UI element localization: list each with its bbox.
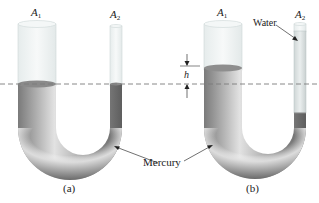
mercury-surface-wide [204,65,242,72]
label-a2: A2 [110,9,120,22]
wide-arm-glass [18,24,56,86]
water-column [294,31,306,113]
arrow-up-icon [185,84,190,89]
caption-a: (a) [63,183,75,194]
mercury-label: Mercury [143,157,181,168]
label-a1: A1 [31,7,41,20]
arrow-down-icon [185,61,190,66]
panel-b [180,21,306,180]
water-label: Water [253,18,277,28]
label-a1: A1 [217,7,227,20]
label-a2: A2 [295,9,305,22]
wide-arm-glass [204,24,242,70]
height-label: h [184,70,189,80]
u-tube-diagram [0,0,319,203]
caption-b: (b) [246,183,259,194]
panel-a [18,21,158,181]
narrow-arm-glass [110,26,122,86]
